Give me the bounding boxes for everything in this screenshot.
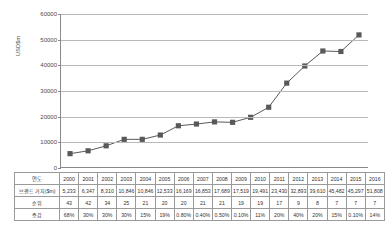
table-cell: 0.80% [174,209,193,221]
table-cell: 2001 [79,173,98,185]
table-row-header: 브랜드 가치($m) [15,185,60,197]
y-axis-tickmark [58,168,61,169]
table-cell: 20 [155,197,174,209]
gridline [61,65,368,66]
table-cell: 51,808 [365,185,384,197]
table-row: 증감68%30%30%30%15%19%0.80%0.40%0.50%0.10%… [15,209,385,221]
table-cell: 19% [155,209,174,221]
table-row: 순위43423425212020212119191798777 [15,197,385,209]
table-cell: 2004 [136,173,155,185]
data-point-marker [158,132,163,137]
data-point-marker [338,49,343,54]
y-axis-tick-label: 40000 [40,62,57,68]
y-axis-tickmark [58,14,61,15]
table-cell: 32,893 [289,185,308,197]
table-cell: 40% [289,209,308,221]
table-cell: 0.50% [212,209,231,221]
y-axis-tick-label: 10000 [40,139,57,145]
gridline [61,91,368,92]
table-cell: 23,430 [270,185,289,197]
table-cell: 16,853 [193,185,212,197]
plot-area: 0100002000030000400005000060000 [60,14,368,168]
table-cell: 17,519 [231,185,250,197]
y-axis-tickmark [58,117,61,118]
gridline [61,117,368,118]
table-cell: 17,689 [212,185,231,197]
data-point-marker [266,105,271,110]
y-axis-label: USD$m [1,0,35,10]
table-cell: 19 [251,197,270,209]
gridline [61,14,368,15]
table-cell: 14% [365,209,384,221]
table-cell: 34 [98,197,117,209]
table-cell: 10,846 [136,185,155,197]
table-cell: 7 [365,197,384,209]
table-cell: 2013 [308,173,327,185]
y-axis-tick-label: 20000 [40,114,57,120]
data-point-marker [320,48,325,53]
data-point-marker [356,32,361,37]
table-cell: 2008 [212,173,231,185]
table-row-header: 증감 [15,209,60,221]
table-cell: 39,610 [308,185,327,197]
series-polyline [70,35,359,154]
table-cell: 9 [289,197,308,209]
table-cell: 2016 [365,173,384,185]
data-table: 연도20002001200220032004200520062007200820… [14,172,366,221]
table-row: 연도20002001200220032004200520062007200820… [15,173,385,185]
table-cell: 2015 [346,173,365,185]
table-cell: 2009 [231,173,250,185]
table-cell: 2005 [155,173,174,185]
data-point-marker [122,137,127,142]
table-cell: 2010 [251,173,270,185]
table-cell: 2011 [270,173,289,185]
table-cell: 7 [327,197,346,209]
table-cell: 45,482 [327,185,346,197]
gridline [61,142,368,143]
table-cell: 2012 [289,173,308,185]
table-cell: 2003 [117,173,136,185]
data-point-marker [194,121,199,126]
table-cell: 2002 [98,173,117,185]
data-point-marker [230,120,235,125]
y-axis-tick-label: 50000 [40,37,57,43]
table-cell: 17 [270,197,289,209]
table-cell: 8,310 [98,185,117,197]
table-cell: 5,233 [60,185,79,197]
table-cell: 21 [136,197,155,209]
table-cell: 2007 [193,173,212,185]
table-cell: 30% [117,209,136,221]
table-cell: 7 [346,197,365,209]
table-cell: 2006 [174,173,193,185]
table-row: 브랜드 가치($m)5,2336,3478,31010,84610,84612,… [15,185,385,197]
table-cell: 0.40% [193,209,212,221]
table-cell: 12,533 [155,185,174,197]
data-point-marker [176,123,181,128]
table-cell: 30% [98,209,117,221]
data-point-marker [212,119,217,124]
table-cell: 0.10% [231,209,250,221]
table-cell: 11% [251,209,270,221]
y-axis-tickmark [58,40,61,41]
table-cell: 6,347 [79,185,98,197]
table-cell: 42 [79,197,98,209]
gridline [61,40,368,41]
table-cell: 21 [193,197,212,209]
y-axis-tickmark [58,65,61,66]
y-axis-tick-label: 0 [54,165,57,171]
table-cell: 20% [308,209,327,221]
y-axis-label-text: USD$m [15,36,21,56]
table-cell: 25 [117,197,136,209]
data-point-marker [67,151,72,156]
table-cell: 0.10% [346,209,365,221]
table-cell: 8 [308,197,327,209]
table-cell: 19 [231,197,250,209]
table-row-header: 순위 [15,197,60,209]
y-axis-tickmark [58,142,61,143]
table-cell: 2000 [60,173,79,185]
data-point-marker [104,143,109,148]
table-cell: 19,491 [251,185,270,197]
data-point-marker [140,137,145,142]
table-cell: 2014 [327,173,346,185]
